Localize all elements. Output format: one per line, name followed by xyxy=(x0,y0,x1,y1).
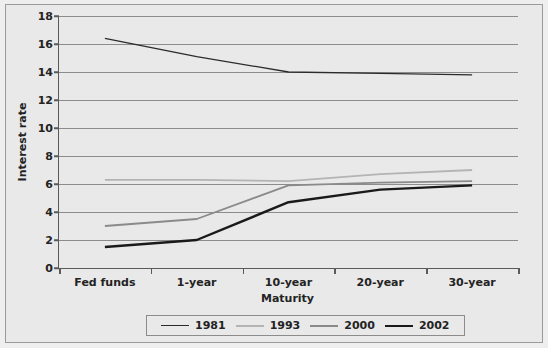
x-axis-tick-label: 1-year xyxy=(177,277,217,288)
x-axis-tick-label: 30-year xyxy=(448,277,495,288)
y-axis-tick-label: 14 xyxy=(38,67,53,78)
x-axis-tick-mark xyxy=(426,268,428,274)
x-axis-title: Maturity xyxy=(58,292,517,305)
y-axis-tick-label: 10 xyxy=(38,123,53,134)
x-axis-tick-mark xyxy=(243,268,245,274)
legend-line-swatch xyxy=(385,325,413,327)
legend-entry-1981[interactable]: 1981 xyxy=(156,320,231,331)
x-axis-tick-mark xyxy=(151,268,153,274)
legend-line-swatch xyxy=(236,325,264,327)
y-axis-tick-label: 18 xyxy=(38,11,53,22)
series-lines xyxy=(59,16,518,268)
y-axis-tick-label: 4 xyxy=(45,207,53,218)
legend-entry-2000[interactable]: 2000 xyxy=(305,320,380,331)
x-axis-tick-label: 10-year xyxy=(265,277,312,288)
chart-legend: 1981199320002002 xyxy=(146,315,465,336)
legend-entry-2002[interactable]: 2002 xyxy=(380,320,455,331)
series-line-2002 xyxy=(105,185,472,247)
x-axis-tick-mark xyxy=(59,268,61,274)
x-axis-tick-mark xyxy=(518,268,520,274)
y-axis-tick-label: 8 xyxy=(45,151,53,162)
y-axis-tick-label: 0 xyxy=(45,263,53,274)
y-axis-tick-label: 12 xyxy=(38,95,53,106)
y-axis-tick-label: 2 xyxy=(45,235,53,246)
series-line-1981 xyxy=(105,38,472,74)
legend-line-swatch xyxy=(161,325,189,326)
y-axis-tick-label: 16 xyxy=(38,39,53,50)
chart-figure: Interest rate 024681012141618 Fed funds1… xyxy=(0,0,548,348)
legend-line-swatch xyxy=(310,325,338,327)
legend-entry-1993[interactable]: 1993 xyxy=(231,320,306,331)
y-axis-tick-label: 6 xyxy=(45,179,53,190)
legend-label: 1981 xyxy=(195,320,226,331)
x-axis-tick-label: Fed funds xyxy=(74,277,135,288)
y-axis-title: Interest rate xyxy=(16,16,30,268)
legend-label: 2000 xyxy=(344,320,375,331)
x-axis-tick-label: 20-year xyxy=(357,277,404,288)
series-line-1993 xyxy=(105,170,472,181)
legend-label: 1993 xyxy=(270,320,301,331)
plot-area: 024681012141618 Fed funds1-year10-year20… xyxy=(58,16,518,269)
legend-label: 2002 xyxy=(419,320,450,331)
x-axis-tick-mark xyxy=(334,268,336,274)
